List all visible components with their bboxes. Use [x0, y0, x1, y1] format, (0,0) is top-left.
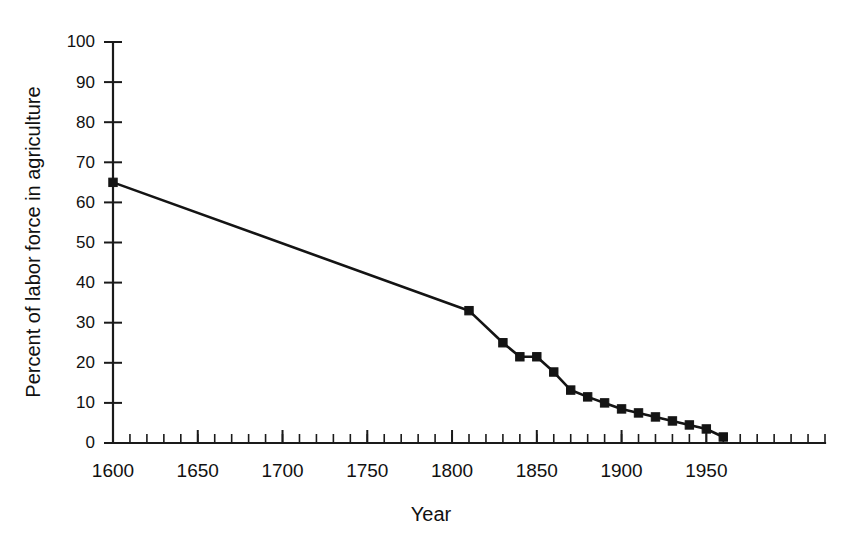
- x-tick-label: 1600: [92, 460, 134, 481]
- data-point-marker: [567, 386, 575, 394]
- data-point-marker: [550, 368, 558, 376]
- y-tick-label: 70: [76, 153, 95, 172]
- data-point-marker: [617, 405, 625, 413]
- x-axis-tick-labels: 16001650170017501800185019001950: [92, 460, 728, 481]
- x-tick-label: 1650: [177, 460, 219, 481]
- data-point-marker: [583, 393, 591, 401]
- y-tick-label: 40: [76, 273, 95, 292]
- y-axis-tick-labels: 0102030405060708090100: [67, 32, 95, 452]
- chart-page: 0102030405060708090100 16001650170017501…: [0, 0, 863, 547]
- data-point-marker: [600, 399, 608, 407]
- data-point-marker: [702, 425, 710, 433]
- y-tick-label: 30: [76, 313, 95, 332]
- data-point-marker: [668, 417, 676, 425]
- line-chart: 0102030405060708090100 16001650170017501…: [0, 0, 863, 547]
- data-point-marker: [719, 433, 727, 441]
- y-tick-label: 100: [67, 32, 95, 51]
- data-point-marker: [651, 413, 659, 421]
- y-axis-title: Percent of labor force in agriculture: [22, 86, 44, 397]
- x-tick-label: 1700: [261, 460, 303, 481]
- y-tick-label: 90: [76, 73, 95, 92]
- data-point-marker: [465, 306, 473, 314]
- x-tick-label: 1900: [600, 460, 642, 481]
- y-tick-label: 10: [76, 393, 95, 412]
- y-tick-label: 80: [76, 113, 95, 132]
- data-point-marker: [516, 353, 524, 361]
- y-tick-label: 60: [76, 193, 95, 212]
- x-tick-label: 1950: [685, 460, 727, 481]
- x-tick-label: 1800: [431, 460, 473, 481]
- data-point-marker: [499, 339, 507, 347]
- x-tick-label: 1850: [516, 460, 558, 481]
- x-axis-title: Year: [411, 503, 452, 525]
- data-point-marker: [685, 421, 693, 429]
- y-tick-label: 0: [86, 433, 95, 452]
- data-point-marker: [533, 353, 541, 361]
- series-line-agriculture: [113, 182, 723, 437]
- x-tick-label: 1750: [346, 460, 388, 481]
- data-point-marker: [634, 409, 642, 417]
- data-point-marker: [109, 178, 117, 186]
- y-tick-label: 20: [76, 353, 95, 372]
- y-tick-label: 50: [76, 233, 95, 252]
- series-markers-agriculture: [109, 178, 728, 441]
- x-axis-ticks: [113, 430, 825, 443]
